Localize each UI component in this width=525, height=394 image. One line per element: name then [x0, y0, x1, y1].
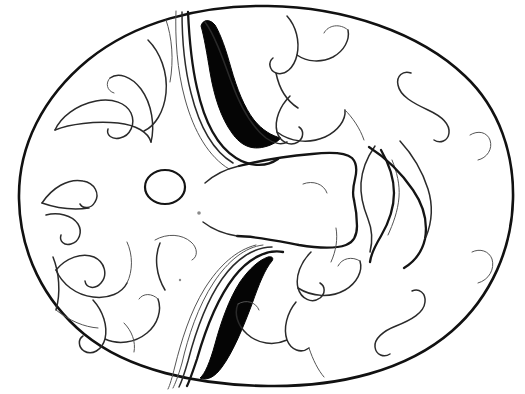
mask-drawing [0, 0, 525, 394]
artwork-canvas [0, 0, 525, 394]
ink-speck [197, 211, 201, 215]
nostril-circle [145, 170, 185, 204]
mask-outline [19, 6, 513, 386]
ink-speck-secondary [179, 279, 181, 281]
